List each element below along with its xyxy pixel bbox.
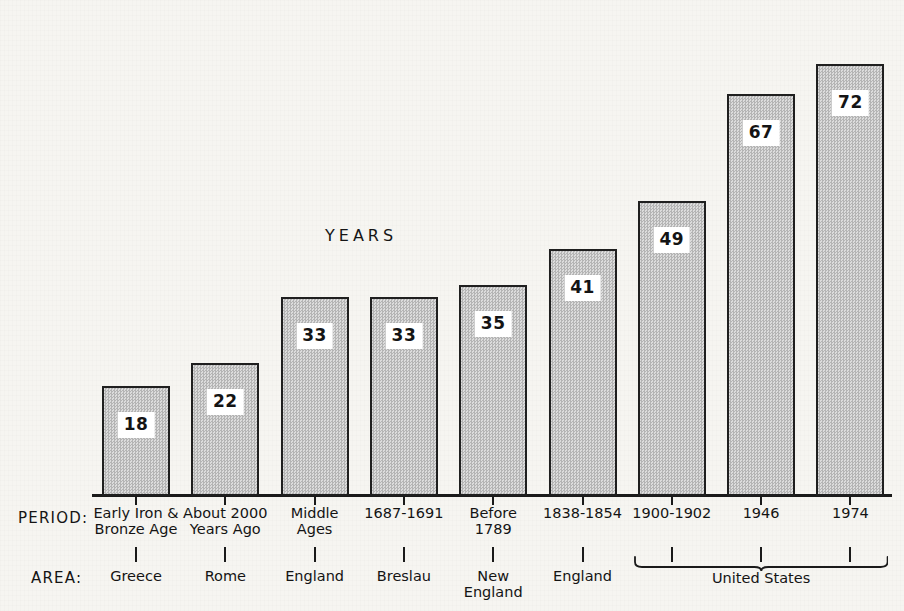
group-label: United States [712,570,810,586]
x-axis-tick [671,496,673,505]
period-label: About 2000 Years Ago [183,505,267,537]
x-axis-tick [492,496,494,505]
period-label: 1946 [743,505,780,521]
x-axis-tick [224,496,226,505]
bar: 72 [816,64,884,496]
bar-value-label: 33 [296,323,333,349]
area-label: England [553,568,612,584]
period-area-connector [403,547,405,562]
period-area-connector [224,547,226,562]
chart-title: YEARS [325,226,397,245]
x-axis-tick [135,496,137,505]
bar: 67 [727,94,795,496]
bar: 49 [638,201,706,496]
bar-value-label: 33 [386,323,423,349]
bar-value-label: 18 [118,412,155,438]
x-axis-tick [849,496,851,505]
bar: 35 [459,285,527,496]
x-axis-tick [314,496,316,505]
period-area-connector [582,547,584,562]
bar-chart-figure: YEARS 182233333541496772 Early Iron & Br… [0,0,904,611]
period-row-header: PERIOD: [18,509,88,527]
period-label: 1900-1902 [632,505,711,521]
period-label: 1687-1691 [364,505,443,521]
period-label: Middle Ages [291,505,339,537]
bar: 18 [102,386,170,496]
x-axis-tick [403,496,405,505]
bar-value-label: 72 [832,90,869,116]
area-label: Rome [205,568,246,584]
period-area-connector [314,547,316,562]
plot-area: YEARS 182233333541496772 Early Iron & Br… [0,0,904,611]
period-area-connector [135,547,137,562]
area-label: England [285,568,344,584]
bar-value-label: 35 [475,311,512,337]
bar-value-label: 67 [743,120,780,146]
period-label: 1838-1854 [543,505,622,521]
bar-value-label: 41 [564,275,601,301]
x-axis-tick [582,496,584,505]
period-label: 1974 [832,505,869,521]
period-area-connector [492,547,494,562]
x-axis-tick [760,496,762,505]
area-row-header: AREA: [31,569,82,587]
period-label: Early Iron & Bronze Age [93,505,178,537]
area-label: Breslau [377,568,431,584]
bar: 41 [549,249,617,496]
bar-value-label: 49 [653,227,690,253]
period-label: Before 1789 [469,505,516,537]
bar: 33 [370,297,438,496]
bar-value-label: 22 [207,389,244,415]
bar: 33 [281,297,349,496]
area-label: New England [464,568,523,600]
area-label: Greece [110,568,162,584]
bar: 22 [191,363,259,496]
